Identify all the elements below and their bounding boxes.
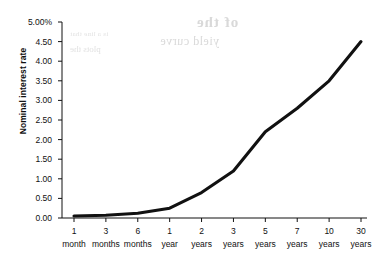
- chart-figure: of the yield curve is a line that plots …: [0, 0, 378, 260]
- x-axis-tick-number: 30: [338, 225, 378, 238]
- x-axis-tick-label: 30years: [338, 225, 378, 251]
- x-axis-tick-labels: 1month3months6months1year2years3years5ye…: [0, 0, 378, 260]
- x-axis-tick-unit: years: [338, 238, 378, 251]
